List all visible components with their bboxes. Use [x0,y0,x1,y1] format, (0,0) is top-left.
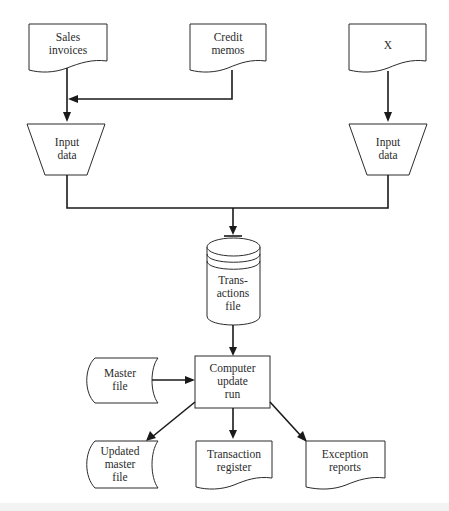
x-document-label: X [384,39,393,51]
arrow-right-icon [185,376,195,384]
arrow-down-icon [229,347,237,356]
flow-transactions-to-update [229,325,237,356]
flow-credit-memos-to-input [68,70,232,103]
flow-master-to-update [152,376,195,384]
computer-update-run-process: Computer update run [195,356,270,408]
updated-master-label-1: Updated [101,445,140,458]
flow-inputs-to-transactions-file [67,175,388,236]
input-left-label-2: data [57,149,76,161]
updated-master-file-storage: Updated master file [87,441,158,488]
arrow-down-icon [384,112,392,122]
arrow-left-icon [68,95,78,103]
updated-master-label-3: file [112,471,127,483]
input-data-left: Input data [27,124,105,175]
exception-reports-document: Exception reports [306,441,385,489]
arrow-down-left-icon [146,431,156,441]
computer-update-label-3: run [225,388,241,400]
sales-invoices-document: Sales invoices [29,24,107,72]
transactions-file-label-3: file [225,300,240,312]
flow-sales-to-input [63,68,71,122]
credit-memos-label-1: Credit [214,31,244,43]
input-right-label-1: Input [376,136,401,149]
flow-update-to-exception-reports [270,402,307,442]
x-document: X [349,24,426,72]
master-file-storage: Master file [87,358,158,403]
updated-master-label-2: master [105,458,136,470]
exception-reports-label-1: Exception [322,448,369,461]
input-right-label-2: data [378,149,397,161]
transaction-register-document: Transaction register [196,441,272,489]
flow-x-to-input [384,71,392,122]
exception-reports-label-2: reports [329,461,361,474]
arrow-down-icon [229,226,237,235]
flowchart-canvas: Sales invoices Credit memos X Input data… [0,0,449,511]
master-file-label-1: Master [104,367,136,379]
page-bottom-edge [0,503,449,511]
computer-update-label-2: update [217,375,248,388]
credit-memos-label-2: memos [211,44,245,56]
flow-update-to-transaction-register [229,408,237,439]
flow-update-to-updated-master [146,402,195,441]
input-data-right: Input data [349,124,427,175]
transactions-file-disk: Trans- actions file [207,238,260,325]
computer-update-label-1: Computer [210,362,256,375]
sales-invoices-label-1: Sales [56,31,81,43]
transactions-file-label-1: Trans- [218,274,248,286]
transactions-file-label-2: actions [217,287,250,299]
transaction-register-label-2: register [217,461,252,474]
sales-invoices-label-2: invoices [49,44,88,56]
input-left-label-1: Input [55,136,80,149]
arrow-down-icon [63,112,71,122]
transaction-register-label-1: Transaction [207,448,261,460]
arrow-down-icon [229,430,237,439]
master-file-label-2: file [112,380,127,392]
credit-memos-document: Credit memos [190,24,266,72]
